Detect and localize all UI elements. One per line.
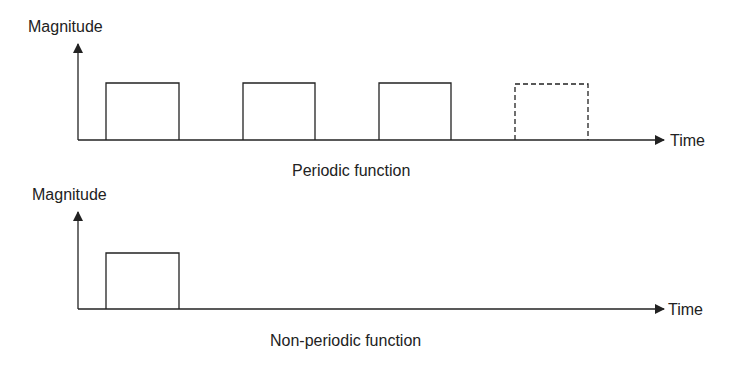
single-pulse xyxy=(106,253,179,309)
periodic-diagram xyxy=(78,44,664,140)
pulse-3 xyxy=(379,83,451,140)
periodic-x-label: Time xyxy=(670,133,705,149)
periodic-y-label: Magnitude xyxy=(28,19,103,35)
pulse-2 xyxy=(243,83,315,140)
pulse-1 xyxy=(106,83,179,140)
non-periodic-diagram xyxy=(78,212,664,309)
non-periodic-caption: Non-periodic function xyxy=(270,333,421,349)
pulse-4-dashed xyxy=(515,84,588,140)
non-periodic-y-label: Magnitude xyxy=(32,187,107,203)
non-periodic-x-label: Time xyxy=(668,302,703,318)
diagram-canvas xyxy=(0,0,731,371)
periodic-caption: Periodic function xyxy=(292,163,410,179)
